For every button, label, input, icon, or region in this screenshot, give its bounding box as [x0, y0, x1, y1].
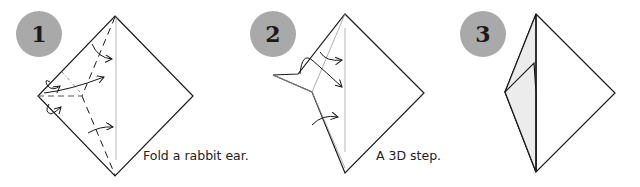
step-number: 1 [31, 21, 46, 47]
step-badge-1: 1 [16, 11, 62, 57]
step-badge-2: 2 [250, 11, 296, 57]
step-number: 2 [265, 21, 280, 47]
step-3-diagram [505, 14, 615, 172]
step-badge-3: 3 [460, 11, 506, 57]
diagram-drawings [0, 0, 640, 187]
step-2-caption: A 3D step. [376, 149, 441, 163]
step-1-caption: Fold a rabbit ear. [143, 149, 249, 163]
step-number: 3 [475, 21, 490, 47]
origami-diagram: 1 2 3 Fold a rabbit ear. A 3D step. [0, 0, 640, 187]
